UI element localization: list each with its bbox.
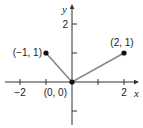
point-label: (−1, 1) — [13, 47, 42, 58]
chart: −22 2 (−1, 1)(0, 0)(2, 1) x y — [0, 0, 143, 128]
y-tick-label: 2 — [62, 19, 68, 30]
series-line — [46, 53, 124, 82]
data-point — [121, 50, 126, 55]
x-tick-label: −2 — [14, 87, 26, 98]
y-axis-label: y — [61, 3, 67, 15]
x-tick-label: 2 — [121, 87, 127, 98]
data-series: (−1, 1)(0, 0)(2, 1) — [13, 37, 134, 98]
data-point — [69, 79, 74, 84]
data-point — [43, 50, 48, 55]
point-label: (2, 1) — [110, 37, 133, 48]
x-axis-label: x — [133, 87, 139, 99]
point-label: (0, 0) — [44, 87, 67, 98]
